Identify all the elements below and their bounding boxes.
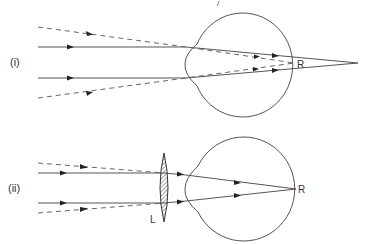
arrowhead-icon bbox=[234, 193, 241, 198]
arrowhead-icon bbox=[177, 172, 184, 177]
arrowhead-icon bbox=[272, 68, 279, 73]
dashed-ray-top-ii bbox=[38, 163, 164, 173]
solid-ray-bottom-i bbox=[38, 63, 358, 78]
arrowhead-icon bbox=[86, 91, 93, 96]
panel-i: (i) R bbox=[10, 13, 358, 117]
eyeball-outline-ii bbox=[185, 137, 295, 241]
retina-label-i: R bbox=[297, 59, 304, 70]
arrowhead-icon bbox=[67, 45, 74, 50]
solid-ray-top-i bbox=[38, 47, 358, 63]
panel-label-i: (i) bbox=[10, 56, 20, 68]
arrowhead-icon bbox=[67, 76, 74, 81]
lens-label: L bbox=[150, 214, 156, 225]
dashed-ray-bottom-ii bbox=[38, 203, 164, 213]
retina-label-ii: R bbox=[298, 184, 305, 195]
convex-lens bbox=[160, 153, 168, 222]
top-artifact-mark: / bbox=[217, 0, 220, 8]
arrowhead-icon bbox=[60, 171, 67, 176]
arrowhead-icon bbox=[60, 201, 67, 206]
panel-ii: (ii) L R bbox=[8, 137, 305, 241]
eyeball-outline-i bbox=[185, 13, 293, 117]
arrowhead-icon bbox=[234, 180, 241, 185]
arrowhead-icon bbox=[254, 55, 260, 60]
diagram-canvas: / (i) R (ii) bbox=[0, 0, 370, 244]
arrowhead-icon bbox=[177, 200, 184, 205]
panel-label-ii: (ii) bbox=[8, 182, 20, 194]
arrowhead-icon bbox=[253, 67, 259, 72]
arrowhead-icon bbox=[86, 31, 93, 36]
